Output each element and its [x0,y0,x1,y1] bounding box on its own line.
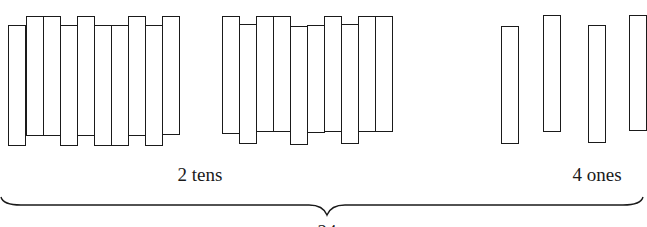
total-label-clip: 24 [0,221,644,227]
total-label: 24 [318,221,337,227]
